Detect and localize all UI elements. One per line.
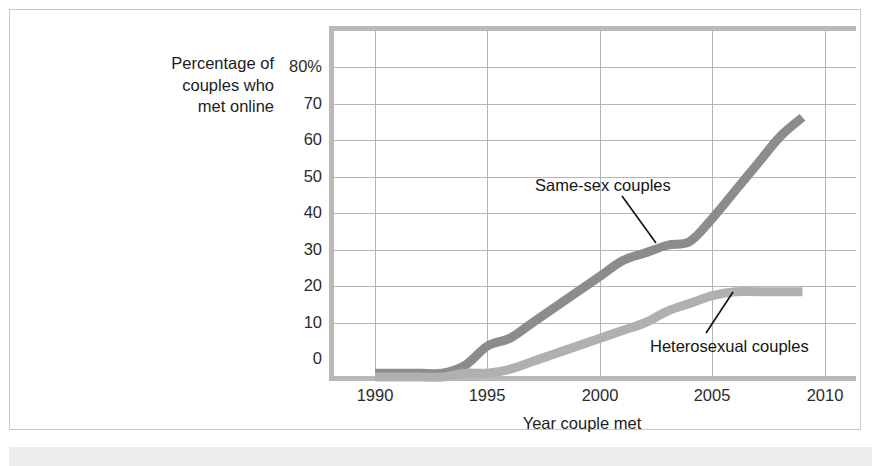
gridline-y-70	[334, 104, 856, 105]
x-axis-title: Year couple met	[432, 414, 732, 433]
y-tick-label-40: 40	[262, 203, 322, 222]
gridline-x-2005	[712, 31, 713, 377]
annotation-same-sex-couples: Same-sex couples	[535, 176, 671, 195]
y-tick-label-50: 50	[262, 167, 322, 186]
y-tick-label-0: 0	[262, 349, 322, 368]
gridline-x-1995	[487, 31, 488, 377]
x-tick-label-2005: 2005	[672, 386, 752, 405]
gridline-y-80	[334, 67, 856, 68]
bottom-band	[9, 447, 872, 466]
chart-figure: Percentage of couples who met online 80%…	[0, 0, 872, 466]
gridline-x-2010	[825, 31, 826, 377]
gridline-y-60	[334, 140, 856, 141]
annotation-heterosexual-couples: Heterosexual couples	[650, 337, 809, 356]
gridline-x-2000	[600, 31, 601, 377]
gridline-y-10	[334, 323, 856, 324]
x-tick-label-2010: 2010	[785, 386, 865, 405]
plot-top-border	[329, 26, 856, 31]
y-tick-label-20: 20	[262, 276, 322, 295]
x-tick-label-1995: 1995	[447, 386, 527, 405]
gridline-y-20	[334, 286, 856, 287]
y-axis-title-line-2: couples who	[108, 75, 274, 97]
gridline-y-40	[334, 213, 856, 214]
y-axis-title-line-1: Percentage of	[108, 53, 274, 75]
y-axis-line	[329, 26, 334, 381]
x-axis-line	[329, 376, 856, 381]
gridline-y-30	[334, 250, 856, 251]
y-tick-label-10: 10	[262, 313, 322, 332]
y-tick-label-70: 70	[262, 94, 322, 113]
y-axis-title: Percentage of couples who met online	[108, 53, 274, 118]
y-axis-title-line-3: met online	[108, 96, 274, 118]
gridline-x-1990	[375, 31, 376, 377]
y-tick-label-60: 60	[262, 130, 322, 149]
y-tick-label-30: 30	[262, 240, 322, 259]
y-tick-label-80: 80%	[262, 57, 322, 76]
x-tick-label-1990: 1990	[335, 386, 415, 405]
x-tick-label-2000: 2000	[560, 386, 640, 405]
